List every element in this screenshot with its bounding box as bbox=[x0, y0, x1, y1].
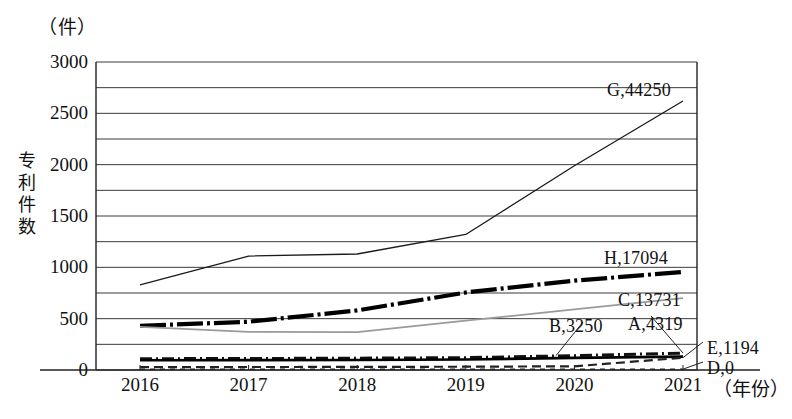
series-label-h: H,17094 bbox=[604, 248, 668, 269]
series-label-d: D,0 bbox=[707, 358, 734, 379]
plot-area bbox=[0, 0, 792, 419]
leader-d bbox=[683, 362, 703, 369]
series-label-e: E,1194 bbox=[707, 338, 759, 359]
x-axis-tick-label: 2016 bbox=[121, 374, 159, 396]
x-axis-tick-label: 2017 bbox=[230, 374, 268, 396]
x-axis-tick-label: 2018 bbox=[338, 374, 376, 396]
series-label-g: G,44250 bbox=[607, 80, 671, 101]
series-label-c: C,13731 bbox=[618, 290, 681, 311]
series-line-g bbox=[140, 101, 683, 285]
patent-count-line-chart: （件） 专 利 件 数 050010001500200025003000 201… bbox=[0, 0, 792, 419]
x-axis-tick-label: 2019 bbox=[447, 374, 485, 396]
x-axis-tick-label: 2021 bbox=[664, 374, 702, 396]
series-label-a: A,4319 bbox=[628, 314, 683, 335]
series-label-b: B,3250 bbox=[549, 316, 603, 337]
x-axis-tick-label: 2020 bbox=[555, 374, 593, 396]
x-axis-tick-labels: 201620172018201920202021（年份） bbox=[0, 374, 792, 404]
